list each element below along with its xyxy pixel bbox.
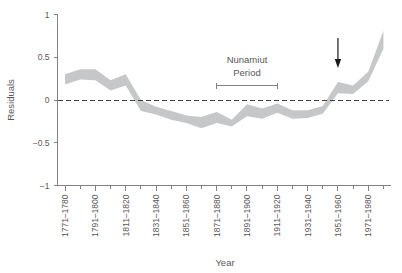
- nunamiut-label-line1: Nunamiut: [227, 54, 268, 65]
- y-tick-label: −1: [40, 181, 50, 191]
- y-tick-label: −0.5: [33, 138, 50, 148]
- x-tick-label: 1931–1940: [303, 194, 313, 237]
- y-tick-label: 0: [45, 95, 50, 105]
- x-tick-label: 1851–1860: [181, 194, 191, 237]
- arrow-marker-annotation: [335, 38, 341, 68]
- residuals-chart-figure: −1−0.500.51 1771–17801791–18001811–18201…: [0, 0, 402, 273]
- nunamiut-range-bar: [217, 83, 278, 89]
- x-axis-tick-labels: 1771–17801791–18001811–18201831–18401851…: [60, 194, 373, 237]
- arrow-head-icon: [335, 59, 341, 68]
- x-tick-label: 1771–1780: [60, 194, 70, 237]
- y-axis-title: Residuals: [5, 79, 16, 121]
- residual-band-area: [65, 31, 383, 128]
- x-axis-title: Year: [215, 257, 234, 268]
- x-tick-label: 1891–1900: [242, 194, 252, 237]
- nunamiut-label-line2: Period: [233, 67, 260, 78]
- x-axis-ticks: [65, 186, 383, 191]
- chart-canvas: −1−0.500.51 1771–17801791–18001811–18201…: [0, 0, 402, 273]
- x-tick-label: 1831–1840: [151, 194, 161, 237]
- y-axis-ticks: [54, 15, 58, 186]
- x-tick-label: 1791–1800: [90, 194, 100, 237]
- y-axis-tick-labels: −1−0.500.51: [33, 10, 50, 191]
- y-tick-label: 0.5: [38, 52, 50, 62]
- x-tick-label: 1951–1960: [333, 194, 343, 237]
- x-tick-label: 1971–1980: [363, 194, 373, 237]
- y-tick-label: 1: [45, 10, 50, 20]
- x-tick-label: 1871–1880: [212, 194, 222, 237]
- x-tick-label: 1811–1820: [121, 194, 131, 236]
- x-tick-label: 1911–1920: [272, 194, 282, 236]
- nunamiut-period-annotation: Nunamiut Period: [217, 54, 278, 89]
